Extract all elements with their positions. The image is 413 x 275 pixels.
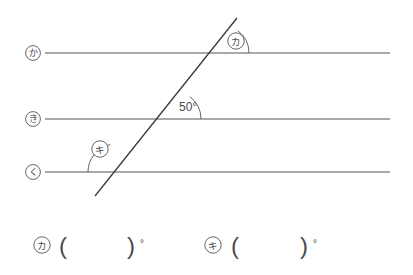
answer-ka-unit: °: [140, 238, 144, 249]
line-label-ku-text: く: [29, 167, 38, 177]
line-label-ka-text: か: [29, 48, 38, 58]
parallel-line-ka-group: か: [26, 46, 390, 61]
answer-ki-unit: °: [313, 238, 317, 249]
geometry-worksheet: か き く カ 50° キ: [0, 0, 413, 275]
answer-ka-group[interactable]: カ ( ) °: [34, 232, 144, 259]
parallel-line-ki-group: き: [26, 112, 390, 127]
parallel-line-ku-group: く: [26, 165, 390, 180]
answer-ki-close-paren: ): [300, 232, 308, 259]
answer-ki-group[interactable]: キ ( ) °: [205, 232, 317, 259]
answer-ki-label-text: キ: [208, 240, 218, 251]
answer-ka-open-paren: (: [59, 232, 67, 259]
transversal-line: [95, 18, 237, 196]
answer-ka-label-text: カ: [37, 240, 47, 251]
answer-ka-close-paren: ): [127, 232, 135, 259]
angle-label-ka-group: カ: [228, 33, 244, 49]
angle-label-50-text: 50°: [179, 100, 197, 114]
angle-label-ki-group: キ: [92, 141, 108, 157]
line-label-ki-text: き: [29, 114, 38, 124]
answer-ki-open-paren: (: [231, 232, 239, 259]
angle-label-ki-text: キ: [95, 144, 105, 155]
parallel-lines-transversal-figure: か き く カ 50° キ: [0, 0, 413, 275]
angle-label-ka-text: カ: [231, 36, 241, 47]
